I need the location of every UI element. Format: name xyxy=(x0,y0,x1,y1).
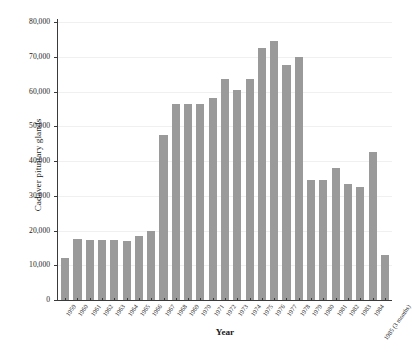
x-axis-tick xyxy=(151,298,152,301)
bar-slot xyxy=(182,22,194,300)
bar-slot xyxy=(157,22,169,300)
bar xyxy=(147,231,155,301)
x-tick-slot: 1973 xyxy=(231,301,243,347)
y-axis-tick xyxy=(54,22,58,23)
x-axis-tick xyxy=(188,298,189,301)
y-axis-tick xyxy=(54,161,58,162)
bar xyxy=(209,98,217,300)
x-axis-tick xyxy=(139,298,140,301)
bar-slot xyxy=(145,22,157,300)
x-axis-tick xyxy=(237,298,238,301)
bar-slot xyxy=(207,22,219,300)
x-axis-tick xyxy=(311,298,312,301)
bar-slot xyxy=(256,22,268,300)
y-axis-tick xyxy=(54,231,58,232)
bar-slot xyxy=(317,22,329,300)
bar-series xyxy=(58,22,392,300)
bar-slot xyxy=(96,22,108,300)
x-tick-slot: 1976 xyxy=(268,301,280,347)
x-tick-slot: 1961 xyxy=(84,301,96,347)
x-axis-tick-labels: 1959196019611962196319641965196619671968… xyxy=(58,301,392,347)
x-axis-tick xyxy=(65,298,66,301)
x-axis-tick xyxy=(360,298,361,301)
x-axis-tick xyxy=(77,298,78,301)
bar-slot xyxy=(293,22,305,300)
bar-slot xyxy=(379,22,391,300)
bar-slot xyxy=(133,22,145,300)
x-axis-tick xyxy=(213,298,214,301)
x-axis-tick xyxy=(127,298,128,301)
bar-slot xyxy=(59,22,71,300)
x-tick-slot: 1985 (3 months) xyxy=(379,301,391,347)
x-tick-slot: 1982 xyxy=(342,301,354,347)
bar xyxy=(344,184,352,300)
bar-slot xyxy=(330,22,342,300)
bar xyxy=(159,135,167,300)
bar-slot xyxy=(268,22,280,300)
bar-slot xyxy=(108,22,120,300)
y-axis-tick-label: 10,000 xyxy=(2,260,50,269)
bar xyxy=(184,104,192,300)
bar xyxy=(86,240,94,300)
bar xyxy=(356,187,364,300)
bar-slot xyxy=(120,22,132,300)
x-axis-title: Year xyxy=(58,327,392,337)
x-axis-tick xyxy=(200,298,201,301)
bar-slot xyxy=(280,22,292,300)
bar-slot xyxy=(231,22,243,300)
x-axis-tick xyxy=(250,298,251,301)
bar-slot xyxy=(170,22,182,300)
x-axis-tick xyxy=(114,298,115,301)
y-axis-tick-label: 60,000 xyxy=(2,87,50,96)
bar xyxy=(381,255,389,300)
x-tick-slot: 1960 xyxy=(71,301,83,347)
x-axis-tick xyxy=(299,298,300,301)
x-tick-slot: 1977 xyxy=(280,301,292,347)
bar xyxy=(282,65,290,300)
y-axis-tick xyxy=(54,57,58,58)
x-axis-tick xyxy=(323,298,324,301)
x-axis-tick xyxy=(373,298,374,301)
y-axis-tick-label: 0 xyxy=(2,295,50,304)
bar xyxy=(295,57,303,300)
x-tick-slot: 1963 xyxy=(108,301,120,347)
y-axis-tick xyxy=(54,265,58,266)
x-tick-slot: 1970 xyxy=(194,301,206,347)
x-tick-slot: 1967 xyxy=(157,301,169,347)
y-axis-tick-label: 80,000 xyxy=(2,17,50,26)
bar-slot xyxy=(219,22,231,300)
x-tick-slot: 1971 xyxy=(207,301,219,347)
x-tick-slot: 1968 xyxy=(170,301,182,347)
x-tick-slot: 1981 xyxy=(330,301,342,347)
x-tick-slot: 1979 xyxy=(305,301,317,347)
x-tick-slot: 1975 xyxy=(256,301,268,347)
bar xyxy=(61,258,69,300)
bar xyxy=(246,79,254,300)
bar-slot xyxy=(342,22,354,300)
bar xyxy=(172,104,180,300)
y-axis-tick-label: 30,000 xyxy=(2,191,50,200)
x-axis-tick xyxy=(336,298,337,301)
bar xyxy=(110,240,118,300)
x-axis-tick xyxy=(286,298,287,301)
bar-slot xyxy=(305,22,317,300)
bar xyxy=(258,48,266,300)
x-tick-slot: 1959 xyxy=(59,301,71,347)
x-tick-slot: 1984 xyxy=(366,301,378,347)
bar-slot xyxy=(84,22,96,300)
x-tick-slot: 1972 xyxy=(219,301,231,347)
x-axis-tick xyxy=(348,298,349,301)
y-axis-tick xyxy=(54,126,58,127)
bar xyxy=(98,240,106,300)
x-axis-tick xyxy=(90,298,91,301)
bar-slot xyxy=(243,22,255,300)
x-tick-slot: 1969 xyxy=(182,301,194,347)
bar xyxy=(196,104,204,300)
bar-slot xyxy=(71,22,83,300)
x-axis-tick xyxy=(164,298,165,301)
x-tick-slot: 1966 xyxy=(145,301,157,347)
x-tick-slot: 1983 xyxy=(354,301,366,347)
x-axis-tick xyxy=(385,298,386,301)
bar xyxy=(332,168,340,300)
